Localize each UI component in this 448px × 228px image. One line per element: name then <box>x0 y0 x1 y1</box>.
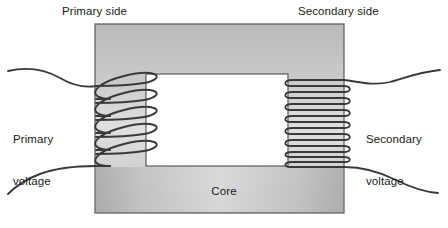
label-secondary-side: Secondary side <box>298 4 379 18</box>
label-primary-voltage: Primary voltage <box>13 104 53 216</box>
core-top-yoke-shade <box>96 25 343 73</box>
label-primary-voltage-line1: Primary <box>13 132 53 146</box>
transformer-diagram: Primary side Secondary side Primary volt… <box>0 0 448 228</box>
primary-lead-top <box>8 69 96 87</box>
label-primary-side: Primary side <box>62 4 127 18</box>
label-secondary-voltage: Secondary voltage <box>366 104 422 216</box>
core-window <box>146 74 288 166</box>
secondary-lead-top <box>344 70 440 84</box>
label-secondary-voltage-line1: Secondary <box>366 132 422 146</box>
label-core: Core <box>0 184 448 198</box>
